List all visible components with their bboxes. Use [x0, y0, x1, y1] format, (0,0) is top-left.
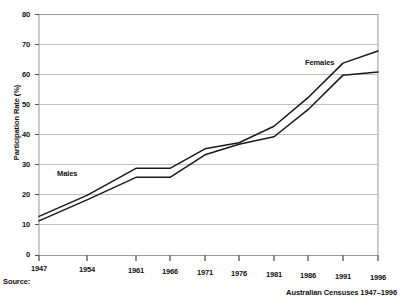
source-value: Australian Censuses 1947–1996	[286, 288, 397, 297]
grid-lines	[39, 45, 378, 225]
y-tick-marks	[35, 15, 39, 256]
x-tick-label-1947: 1947	[19, 264, 59, 273]
x-tick-label-1991: 1991	[323, 272, 363, 281]
chart-plot-svg	[0, 0, 401, 305]
series-line-males	[39, 72, 378, 221]
series-label-females: Females	[305, 58, 334, 67]
x-tick-label-1996: 1996	[358, 273, 398, 282]
chart-container: Participation Rate (%) 80 70 60 50 40 30…	[0, 0, 401, 305]
plot-frame	[39, 15, 378, 256]
x-tick-marks	[39, 256, 378, 262]
series-line-females	[39, 51, 378, 216]
source-label: Source:	[3, 277, 30, 286]
x-tick-label-1976: 1976	[219, 269, 259, 278]
x-tick-label-1986: 1986	[288, 271, 328, 280]
x-tick-label-1966: 1966	[150, 267, 190, 276]
x-tick-label-1954: 1954	[67, 265, 107, 274]
series-label-males: Males	[57, 169, 77, 178]
